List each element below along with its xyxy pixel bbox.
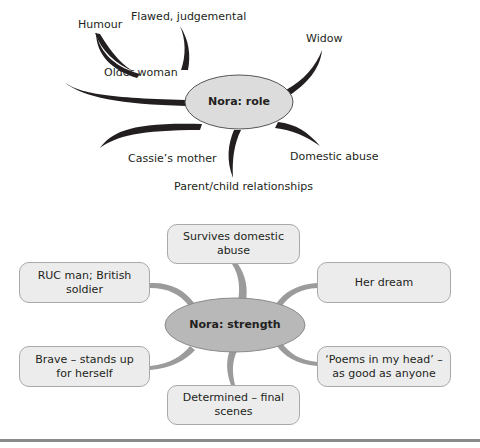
role-center-label: Nora: role bbox=[185, 95, 293, 108]
strength-box-determined: Determined – final scenes bbox=[167, 385, 300, 425]
branch-label-cassies-mother: Cassie’s mother bbox=[128, 152, 216, 165]
strength-box-brave: Brave – stands up for herself bbox=[19, 346, 150, 387]
strength-box-ruc: RUC man; British soldier bbox=[19, 262, 150, 303]
branch-label-widow: Widow bbox=[306, 32, 342, 45]
strength-center-label: Nora: strength bbox=[165, 318, 305, 331]
branch-label-older-woman: Older woman bbox=[104, 66, 178, 79]
strength-box-survives: Survives domestic abuse bbox=[167, 224, 300, 264]
branch-label-humour: Humour bbox=[78, 18, 122, 31]
strength-box-poems: ‘Poems in my head’ – as good as anyone bbox=[317, 346, 451, 387]
strength-box-her-dream: Her dream bbox=[317, 262, 451, 303]
branch-label-domestic-abuse: Domestic abuse bbox=[290, 150, 379, 163]
bottom-rule bbox=[0, 439, 480, 442]
branch-label-flawed: Flawed, judgemental bbox=[131, 10, 246, 23]
branch-label-parent-child: Parent/child relationships bbox=[174, 180, 313, 193]
